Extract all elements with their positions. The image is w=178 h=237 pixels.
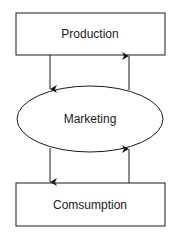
production-label: Production (61, 27, 118, 41)
consumption-node: Comsumption (16, 183, 165, 226)
marketing-label: Marketing (64, 112, 117, 126)
production-node: Production (16, 13, 165, 55)
flow-diagram: Production Marketing Comsumption (0, 0, 178, 237)
consumption-label: Comsumption (53, 198, 127, 212)
marketing-node: Marketing (17, 86, 163, 152)
